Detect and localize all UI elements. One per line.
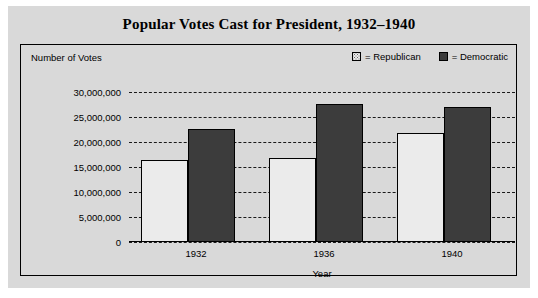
plot-area: 1932 1936 1940 Year — [129, 92, 515, 242]
y-tick-label: 5,000,000 — [79, 212, 121, 223]
legend-swatch-republican-icon — [352, 52, 361, 61]
y-tick-label: 30,000,000 — [73, 87, 121, 98]
y-tick-label: 0 — [116, 237, 121, 248]
legend-label-republican: = Republican — [365, 51, 421, 62]
legend-label-democratic: = Democratic — [452, 51, 508, 62]
bar-democratic-1932[interactable] — [188, 129, 235, 242]
x-axis-title: Year — [129, 268, 515, 279]
x-tick-label-1932: 1932 — [141, 248, 251, 259]
legend-swatch-democratic-icon — [439, 52, 448, 61]
bar-republican-1940[interactable] — [397, 133, 444, 242]
y-axis-title: Number of Votes — [31, 52, 102, 63]
legend: = Republican = Democratic — [352, 51, 508, 62]
y-axis-tick-labels: 30,000,000 25,000,000 20,000,000 15,000,… — [33, 92, 121, 242]
y-tick-label: 20,000,000 — [73, 137, 121, 148]
x-axis-baseline — [129, 241, 515, 242]
legend-item-republican: = Republican — [352, 51, 421, 62]
page: Popular Votes Cast for President, 1932–1… — [0, 0, 538, 298]
x-tick-label-1940: 1940 — [397, 248, 507, 259]
y-tick-label: 15,000,000 — [73, 162, 121, 173]
gridline — [129, 242, 515, 243]
bar-republican-1932[interactable] — [141, 160, 188, 242]
chart-figure: Popular Votes Cast for President, 1932–1… — [8, 6, 530, 288]
bar-democratic-1940[interactable] — [444, 107, 491, 242]
plot-box: Number of Votes = Republican = Democrati… — [20, 44, 517, 276]
page-title: Popular Votes Cast for President, 1932–1… — [8, 16, 530, 33]
bar-republican-1936[interactable] — [269, 158, 316, 242]
legend-item-democratic: = Democratic — [439, 51, 508, 62]
bar-group-1936 — [269, 92, 379, 242]
bar-group-1940 — [397, 92, 507, 242]
y-tick-label: 10,000,000 — [73, 187, 121, 198]
y-tick-label: 25,000,000 — [73, 112, 121, 123]
x-tick-label-1936: 1936 — [269, 248, 379, 259]
bar-group-1932 — [141, 92, 251, 242]
bar-democratic-1936[interactable] — [316, 104, 363, 242]
